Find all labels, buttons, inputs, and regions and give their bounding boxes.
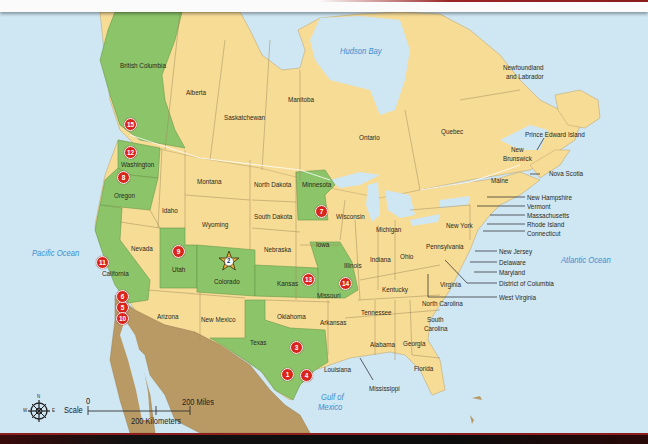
- marker-2-label: 2: [227, 257, 230, 264]
- compass-e: E: [52, 408, 55, 413]
- label-washington: Washington: [121, 161, 154, 168]
- label-california: California: [102, 270, 129, 277]
- label-hudson-bay: Hudson Bay: [340, 47, 382, 56]
- marker-3[interactable]: 3: [290, 341, 303, 354]
- label-nebraska: Nebraska: [264, 246, 291, 253]
- label-virginia: Virginia: [440, 281, 461, 288]
- scale-label: Scale: [64, 405, 83, 415]
- marker-15[interactable]: 15: [124, 118, 137, 131]
- marker-4[interactable]: 4: [300, 369, 313, 382]
- label-oklahoma: Oklahoma: [277, 313, 306, 320]
- label-quebec: Quebec: [441, 128, 463, 135]
- marker-6[interactable]: 6: [116, 290, 129, 303]
- compass-n: N: [37, 394, 40, 399]
- marker-7[interactable]: 7: [315, 205, 328, 218]
- marker-1[interactable]: 1: [281, 368, 294, 381]
- label-british-columbia: British Columbia: [120, 62, 166, 69]
- compass-w: W: [23, 408, 27, 413]
- label-west-virginia: West Virginia: [499, 294, 536, 301]
- marker-9[interactable]: 9: [172, 245, 185, 258]
- map-frame: 2 Hudson Bay Pacific Ocean Atlantic Ocea…: [0, 0, 648, 444]
- label-kentucky: Kentucky: [382, 286, 408, 293]
- label-rhode-island: Rhode Island: [527, 221, 564, 228]
- label-pacific-ocean: Pacific Ocean: [32, 249, 79, 258]
- label-oregon: Oregon: [114, 192, 135, 199]
- label-utah: Utah: [172, 266, 185, 273]
- label-new-brunswick-1: New: [511, 146, 524, 153]
- label-illinois: Illinois: [344, 262, 362, 269]
- label-alabama: Alabama: [370, 341, 395, 348]
- label-gulf-of-mexico-1: Gulf of: [321, 393, 344, 402]
- label-nova-scotia: Nova Scotia: [549, 170, 583, 177]
- label-arkansas: Arkansas: [320, 319, 346, 326]
- marker-14[interactable]: 14: [339, 277, 352, 290]
- label-newfoundland-1: Newfoundland: [503, 64, 543, 71]
- label-new-brunswick-2: Brunswick: [503, 155, 532, 162]
- label-arizona: Arizona: [157, 313, 178, 320]
- label-newfoundland-2: and Labrador: [506, 73, 544, 80]
- label-pennsylvania: Pennsylvania: [426, 243, 464, 250]
- label-iowa: Iowa: [316, 241, 329, 248]
- label-maine: Maine: [491, 177, 508, 184]
- label-alberta: Alberta: [186, 89, 206, 96]
- label-missouri: Missouri: [317, 292, 341, 299]
- label-district-of-columbia: District of Columbia: [499, 280, 554, 287]
- label-prince-edward-island: Prince Edward Island: [525, 131, 585, 138]
- label-massachusetts: Massachusetts: [527, 212, 569, 219]
- label-idaho: Idaho: [162, 207, 178, 214]
- label-gulf-of-mexico-2: Mexico: [318, 403, 342, 412]
- label-wisconsin: Wisconsin: [336, 213, 365, 220]
- label-texas: Texas: [250, 339, 267, 346]
- label-atlantic-ocean: Atlantic Ocean: [561, 256, 611, 265]
- marker-12[interactable]: 12: [124, 146, 137, 159]
- label-florida: Florida: [414, 365, 433, 372]
- scale-kilometers: 200 Kilometers: [131, 416, 181, 426]
- label-nevada: Nevada: [131, 245, 153, 252]
- top-accent-line: [318, 0, 648, 2]
- label-minnesota: Minnesota: [302, 181, 331, 188]
- label-indiana: Indiana: [370, 256, 391, 263]
- label-new-mexico: New Mexico: [201, 316, 235, 323]
- marker-11[interactable]: 11: [96, 256, 109, 269]
- scale-zero: 0: [86, 396, 90, 406]
- label-new-hampshire: New Hampshire: [527, 194, 572, 201]
- label-south-carolina-2: Carolina: [424, 325, 448, 332]
- marker-13[interactable]: 13: [302, 273, 315, 286]
- label-michigan: Michigan: [376, 226, 401, 233]
- label-delaware: Delaware: [499, 259, 526, 266]
- label-north-carolina: North Carolina: [422, 300, 463, 307]
- label-ohio: Ohio: [400, 253, 413, 260]
- label-louisiana: Louisiana: [324, 366, 351, 373]
- label-north-dakota: North Dakota: [254, 181, 291, 188]
- label-saskatchewan: Saskatchewan: [224, 114, 265, 121]
- label-mississippi: Mississippi: [369, 385, 400, 392]
- label-ontario: Ontario: [359, 134, 380, 141]
- label-georgia: Georgia: [403, 340, 426, 347]
- label-manitoba: Manitoba: [288, 96, 314, 103]
- label-tennessee: Tennessee: [361, 309, 392, 316]
- label-south-carolina-1: South: [427, 316, 444, 323]
- label-new-jersey: New Jersey: [499, 248, 532, 255]
- label-connecticut: Connecticut: [527, 230, 560, 237]
- label-vermont: Vermont: [527, 203, 551, 210]
- label-south-dakota: South Dakota: [254, 213, 292, 220]
- label-wyoming: Wyoming: [202, 221, 228, 228]
- label-kansas: Kansas: [277, 280, 298, 287]
- label-colorado: Colorado: [214, 278, 240, 285]
- label-new-york: New York: [446, 222, 473, 229]
- marker-8[interactable]: 8: [117, 171, 130, 184]
- marker-10[interactable]: 10: [116, 312, 129, 325]
- bottom-band: [0, 433, 648, 444]
- label-maryland: Maryland: [499, 269, 525, 276]
- scale-miles: 200 Miles: [182, 397, 214, 407]
- label-montana: Montana: [197, 178, 222, 185]
